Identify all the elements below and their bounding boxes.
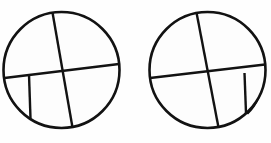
figure-root: Two Divided Circles	[0, 0, 271, 143]
right-wedge-boundary	[245, 73, 247, 113]
left-wedge-boundary	[29, 75, 31, 119]
circle-left-group	[4, 12, 120, 128]
two-circles-diagram	[0, 0, 271, 143]
circle-right-group	[150, 12, 266, 128]
